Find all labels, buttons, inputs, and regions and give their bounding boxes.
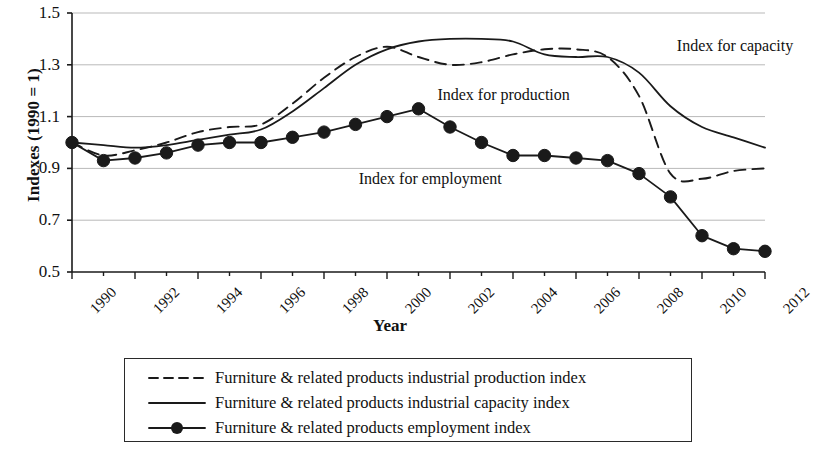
data-point-marker <box>129 152 141 164</box>
data-point-marker <box>696 230 708 242</box>
data-point-marker <box>286 131 298 143</box>
data-point-marker <box>192 139 204 151</box>
data-point-marker <box>381 110 393 122</box>
data-point-marker <box>570 152 582 164</box>
legend-item: Furniture & related products employment … <box>125 415 691 440</box>
data-point-marker <box>255 136 267 148</box>
data-point-marker <box>727 243 739 255</box>
series-line <box>72 39 765 148</box>
legend-swatch-solid-marker <box>147 419 207 437</box>
legend-swatch-solid <box>147 394 207 412</box>
data-point-marker <box>601 154 613 166</box>
data-point-marker <box>475 136 487 148</box>
legend-item: Furniture & related products industrial … <box>125 365 691 390</box>
x-axis-tick-label: 2012 <box>780 284 813 317</box>
series-line <box>72 109 765 252</box>
data-point-marker <box>160 147 172 159</box>
legend-item-label: Furniture & related products employment … <box>215 418 531 438</box>
data-point-marker <box>507 149 519 161</box>
data-point-marker <box>633 167 645 179</box>
data-series <box>66 39 771 258</box>
chart-legend: Furniture & related products industrial … <box>124 358 692 442</box>
data-point-marker <box>664 191 676 203</box>
data-point-marker <box>318 126 330 138</box>
axis-ticks <box>67 13 765 279</box>
data-point-marker <box>759 245 771 257</box>
data-point-marker <box>97 154 109 166</box>
axis-lines <box>72 13 765 272</box>
data-point-marker <box>412 103 424 115</box>
data-point-marker <box>223 136 235 148</box>
data-point-marker <box>66 136 78 148</box>
data-point-marker <box>349 118 361 130</box>
data-point-marker <box>538 149 550 161</box>
legend-swatch-dashed <box>147 369 207 387</box>
legend-item-label: Furniture & related products industrial … <box>215 368 586 388</box>
legend-item: Furniture & related products industrial … <box>125 390 691 415</box>
legend-item-label: Furniture & related products industrial … <box>215 393 570 413</box>
data-point-marker <box>444 121 456 133</box>
